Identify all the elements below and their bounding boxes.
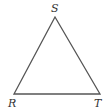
triangle-srt bbox=[14, 17, 100, 94]
vertex-label-r: R bbox=[7, 97, 16, 110]
triangle-diagram: S R T bbox=[0, 0, 111, 112]
vertex-label-t: T bbox=[94, 97, 103, 110]
vertex-label-s: S bbox=[51, 2, 59, 15]
